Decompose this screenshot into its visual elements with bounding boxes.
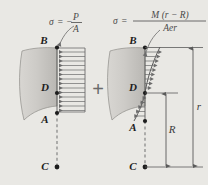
left-formula-numerator: P (72, 12, 79, 22)
left-point-C-label: C (41, 160, 49, 172)
right-point-B-label: B (128, 34, 136, 46)
left-formula-equals: = (57, 17, 63, 27)
left-point-D-label: D (40, 81, 49, 93)
left-point-A-marker (55, 111, 59, 115)
right-formula-equals: = (121, 16, 127, 26)
right-formula-numerator: M (r − R) (150, 10, 188, 21)
left-point-C-marker (55, 165, 60, 170)
left-formula-denominator: A (72, 24, 79, 34)
figure-canvas: σ = − P A B D A C + (0, 0, 208, 185)
left-point-B-label: B (39, 34, 47, 46)
left-formula-sigma: σ (49, 17, 54, 27)
right-formula-denominator: Aer (162, 23, 177, 33)
left-formula-minus: − (66, 17, 72, 27)
right-point-D-label: D (128, 81, 137, 93)
dimension-R-label: R (168, 123, 176, 135)
left-point-D-marker (55, 91, 59, 95)
left-point-B-marker (55, 45, 59, 49)
left-point-A-label: A (40, 113, 48, 125)
right-formula-sigma: σ (113, 16, 118, 26)
right-point-C-label: C (129, 160, 137, 172)
plus-operator: + (92, 78, 104, 100)
right-point-A-label: A (128, 121, 136, 133)
curved-beam-stress-figure: σ = − P A B D A C + (0, 0, 208, 185)
dimension-r-label: r (197, 100, 202, 112)
right-point-A-marker (143, 119, 147, 123)
